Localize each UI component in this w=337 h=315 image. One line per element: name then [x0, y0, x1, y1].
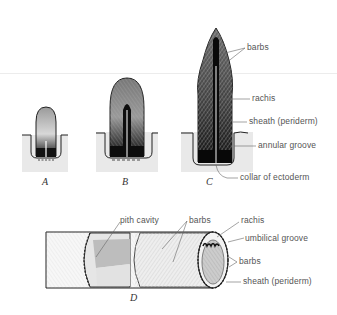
label-d-sheath: sheath (periderm) [243, 277, 312, 286]
panel-d-drawing [46, 221, 244, 288]
label-d-barbs-middle: barbs [189, 216, 211, 225]
diagram-artwork [0, 0, 337, 315]
label-c-annular-groove: annular groove [258, 141, 316, 150]
caption-d: D [130, 293, 137, 303]
label-c-sheath: sheath (periderm) [249, 117, 318, 126]
label-c-rachis: rachis [252, 94, 275, 103]
panel-a-drawing [22, 107, 68, 172]
caption-a: A [42, 177, 48, 187]
panel-b-drawing [96, 78, 158, 172]
caption-c: C [206, 177, 213, 187]
label-d-rachis: rachis [241, 216, 264, 225]
caption-b: B [122, 177, 128, 187]
label-d-umbilical-groove: umbilical groove [245, 234, 308, 243]
label-c-barbs: barbs [247, 43, 269, 52]
panel-c-drawing [181, 28, 256, 178]
label-d-barbs-right: barbs [239, 257, 261, 266]
label-c-collar: collar of ectoderm [240, 173, 309, 182]
label-d-pith-cavity: pith cavity [120, 216, 159, 225]
feather-development-diagram: A B C D barbs rachis sheath (periderm) a… [0, 0, 337, 315]
